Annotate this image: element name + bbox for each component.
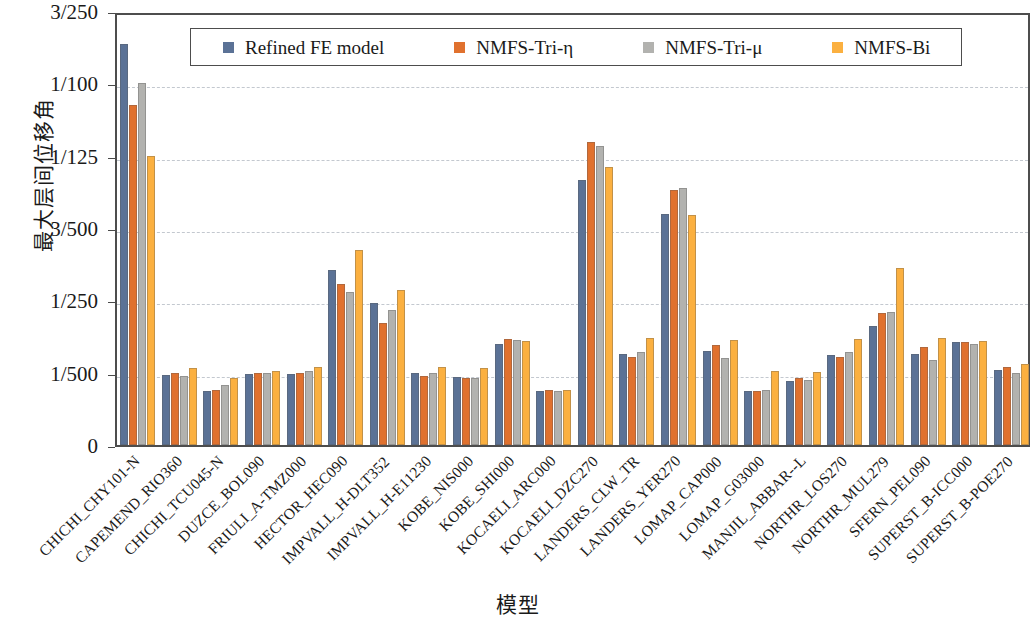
bar [420, 376, 428, 445]
bar-group [658, 15, 700, 445]
bar [120, 44, 128, 445]
bar [438, 367, 446, 445]
bar [762, 390, 770, 445]
bar [786, 381, 794, 445]
bar [952, 342, 960, 445]
bar [670, 190, 678, 445]
bar [771, 371, 779, 446]
bar [129, 105, 137, 445]
bar [795, 378, 803, 445]
bar-groups [117, 15, 1028, 445]
bar [180, 376, 188, 445]
legend-label: Refined FE model [245, 38, 384, 57]
bar [305, 371, 313, 446]
y-tick-label: 1/100 [0, 74, 98, 95]
bar [513, 340, 521, 445]
bar [994, 370, 1002, 445]
bar-group [907, 15, 949, 445]
y-tick-mark [108, 375, 115, 376]
bar-group [575, 15, 617, 445]
bar [920, 347, 928, 445]
bar [1003, 367, 1011, 445]
bar [970, 344, 978, 445]
bar [911, 354, 919, 445]
bar [1021, 364, 1029, 445]
bar [379, 323, 387, 445]
x-axis-title: 模型 [0, 588, 1035, 618]
bar [929, 360, 937, 445]
bar [845, 352, 853, 445]
bar-group [200, 15, 242, 445]
bar [563, 390, 571, 445]
bar [370, 303, 378, 445]
bar [536, 391, 544, 445]
bar [328, 270, 336, 445]
bar [287, 374, 295, 445]
bar [961, 342, 969, 445]
y-tick-label: 3/250 [0, 2, 98, 23]
bar [688, 215, 696, 445]
bar [263, 373, 271, 445]
bar [203, 391, 211, 445]
bar [703, 351, 711, 445]
legend-swatch-icon [643, 42, 654, 53]
bar [753, 391, 761, 445]
legend-swatch-icon [223, 42, 234, 53]
legend-label: NMFS-Tri-η [476, 38, 573, 57]
bar [628, 357, 636, 445]
bar-chart-figure: 最大层间位移角 01/5001/2503/5001/1251/1003/250 … [0, 0, 1035, 621]
legend-item: Refined FE model [223, 38, 384, 57]
bar [355, 250, 363, 445]
bar [245, 374, 253, 445]
bar-group [325, 15, 367, 445]
bar [578, 180, 586, 445]
bar [836, 357, 844, 445]
bar [337, 284, 345, 445]
bar-group [242, 15, 284, 445]
bar-group [782, 15, 824, 445]
bar [254, 373, 262, 445]
y-tick-mark [108, 158, 115, 159]
bar-group [367, 15, 409, 445]
bar [854, 339, 862, 445]
bar-group [741, 15, 783, 445]
bar [637, 352, 645, 445]
bar [504, 339, 512, 445]
bar [212, 390, 220, 445]
bar [147, 156, 155, 445]
bar [462, 378, 470, 445]
bar [869, 326, 877, 445]
y-tick-mark [108, 230, 115, 231]
y-tick-mark [108, 447, 115, 448]
bar [221, 385, 229, 445]
bar [679, 188, 687, 445]
bar [804, 380, 812, 445]
bar [411, 373, 419, 445]
bar [979, 341, 987, 445]
y-tick-label: 1/125 [0, 147, 98, 168]
bar [171, 373, 179, 445]
bar-group [824, 15, 866, 445]
bar [813, 372, 821, 445]
bar [605, 167, 613, 445]
y-tick-mark [108, 302, 115, 303]
bar [721, 358, 729, 445]
bar [346, 292, 354, 445]
legend-swatch-icon [832, 42, 843, 53]
bar [230, 378, 238, 445]
x-axis-tick-labels: CHICHI_CHY101-NCAPEMEND_RIO360CHICHI_TCU… [115, 447, 1030, 567]
bar-group [283, 15, 325, 445]
legend-item: NMFS-Tri-η [454, 38, 573, 57]
legend-label: NMFS-Tri-μ [665, 38, 762, 57]
legend-swatch-icon [454, 42, 465, 53]
y-tick-label: 3/500 [0, 219, 98, 240]
bar [896, 268, 904, 445]
bar [453, 377, 461, 445]
legend-label: NMFS-Bi [854, 38, 930, 57]
bar [938, 338, 946, 445]
bar [730, 340, 738, 445]
bar [272, 371, 280, 445]
bar [661, 214, 669, 445]
y-tick-label: 1/500 [0, 364, 98, 385]
bar-group [949, 15, 991, 445]
